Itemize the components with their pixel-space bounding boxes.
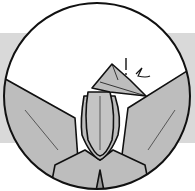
origami-diagram [0, 0, 195, 191]
